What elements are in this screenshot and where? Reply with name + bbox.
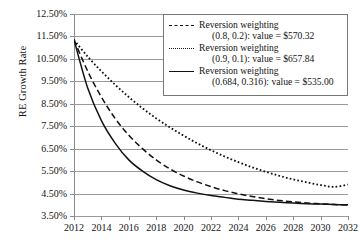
legend-label-line1: Reversion weighting xyxy=(199,65,279,76)
legend-entry[interactable]: Reversion weighting(0.684, 0.316): value… xyxy=(168,65,344,88)
y-tick-label: 6.50% xyxy=(19,144,67,154)
legend-label-line2: (0.9, 0.1): value = $657.84 xyxy=(199,53,314,64)
legend-label: Reversion weighting(0.8, 0.2): value = $… xyxy=(199,19,314,42)
legend-label-line1: Reversion weighting xyxy=(199,42,279,53)
y-tick-label: 10.50% xyxy=(19,54,67,64)
y-tick-label: 8.50% xyxy=(19,99,67,109)
legend-entry[interactable]: Reversion weighting(0.9, 0.1): value = $… xyxy=(168,42,344,65)
legend-label: Reversion weighting(0.9, 0.1): value = $… xyxy=(199,42,314,65)
legend-label: Reversion weighting(0.684, 0.316): value… xyxy=(199,65,334,88)
legend-dotted-line-icon xyxy=(168,42,195,55)
y-tick-label: 9.50% xyxy=(19,76,67,86)
y-tick-label: 11.50% xyxy=(19,31,67,41)
y-tick-label: 7.50% xyxy=(19,121,67,131)
y-tick-label: 3.50% xyxy=(19,211,67,221)
y-tick-label: 5.50% xyxy=(19,166,67,176)
y-tick-label: 4.50% xyxy=(19,189,67,199)
legend-dashed-line-icon xyxy=(168,19,195,32)
x-tick-label: 2032 xyxy=(328,222,363,233)
legend-solid-line-icon xyxy=(168,65,195,78)
legend-label-line2: (0.8, 0.2): value = $570.32 xyxy=(199,30,314,41)
legend: Reversion weighting(0.8, 0.2): value = $… xyxy=(163,14,348,96)
legend-label-line1: Reversion weighting xyxy=(199,19,279,30)
legend-label-line2: (0.684, 0.316): value = $535.00 xyxy=(199,76,334,87)
y-tick-label: 12.50% xyxy=(19,9,67,19)
legend-entry[interactable]: Reversion weighting(0.8, 0.2): value = $… xyxy=(168,19,344,42)
